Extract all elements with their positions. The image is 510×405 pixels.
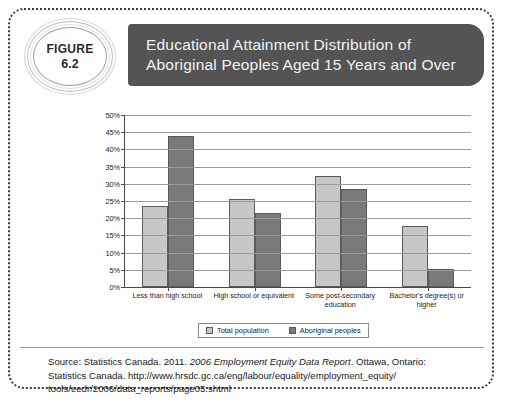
bar-aboriginal xyxy=(255,213,281,287)
source-line-1-italic-title: 2006 Employment Equity Data Report xyxy=(190,356,351,367)
gridline xyxy=(125,201,471,202)
bar-aboriginal xyxy=(428,269,454,287)
legend-label-aboriginal-peoples: Aboriginal peoples xyxy=(300,326,361,335)
y-axis-tick-mark xyxy=(121,287,125,288)
y-axis-tick-mark xyxy=(121,270,125,271)
badge-number: 6.2 xyxy=(61,57,78,71)
y-axis-tick-mark xyxy=(121,201,125,202)
badge-word: FIGURE xyxy=(46,42,93,56)
y-axis-tick-label: 0% xyxy=(109,283,120,292)
plot-area: 50%45%40%35%30%25%20%15%10%5%0% xyxy=(124,115,471,288)
y-axis-tick-mark xyxy=(121,253,125,254)
y-axis-tick-mark xyxy=(121,132,125,133)
gridline xyxy=(125,115,471,116)
x-axis-category-label: Bachelor's degree(s) orhigher xyxy=(384,291,471,309)
y-axis-tick-label: 15% xyxy=(105,231,120,240)
legend-swatch-icon-aboriginal-peoples xyxy=(289,327,296,334)
bar-aboriginal xyxy=(168,136,194,287)
source-line-3: tools/eedr/2006/data_reports/page05.shtm… xyxy=(48,382,478,396)
y-axis-tick-mark xyxy=(121,184,125,185)
y-axis-tick-label: 40% xyxy=(105,145,120,154)
y-axis-tick-label: 20% xyxy=(105,214,120,223)
source-divider xyxy=(20,347,484,348)
y-axis-tick-label: 50% xyxy=(105,111,120,120)
y-axis-tick-mark xyxy=(121,149,125,150)
source-line-1-suffix: . Ottawa, Ontario: xyxy=(351,356,426,367)
figure-card: Educational Attainment Distribution of A… xyxy=(8,8,494,389)
gridline xyxy=(125,167,471,168)
y-axis-tick-mark xyxy=(121,235,125,236)
figure-title-line-1: Educational Attainment Distribution of xyxy=(146,35,484,55)
legend-swatch-icon-total-population xyxy=(206,327,213,334)
x-axis-category-label: Less than high school xyxy=(124,291,211,309)
y-axis-tick-label: 35% xyxy=(105,162,120,171)
gridline xyxy=(125,270,471,271)
gridline xyxy=(125,218,471,219)
y-axis-tick-mark xyxy=(121,218,125,219)
gridline xyxy=(125,132,471,133)
source-line-1: Source: Statistics Canada. 2011. 2006 Em… xyxy=(48,355,478,369)
y-axis-tick-label: 5% xyxy=(109,265,120,274)
y-axis-tick-label: 10% xyxy=(105,248,120,257)
legend-item-total-population: Total population xyxy=(206,326,269,335)
bar-chart: 50%45%40%35%30%25%20%15%10%5%0% Less tha… xyxy=(88,107,480,322)
source-note: Source: Statistics Canada. 2011. 2006 Em… xyxy=(48,355,478,396)
y-axis-tick-label: 25% xyxy=(105,197,120,206)
chart-legend: Total population Aboriginal peoples xyxy=(198,323,369,338)
figure-header-band: Educational Attainment Distribution of A… xyxy=(128,24,484,86)
gridline xyxy=(125,149,471,150)
y-axis-tick-mark xyxy=(121,167,125,168)
badge-text-group: FIGURE 6.2 xyxy=(33,27,107,86)
legend-item-aboriginal-peoples: Aboriginal peoples xyxy=(289,326,361,335)
bar-aboriginal xyxy=(341,189,367,287)
x-axis-category-label: Some post-secondaryeducation xyxy=(297,291,384,309)
x-axis-category-label: High school or equivalent xyxy=(211,291,298,309)
gridline xyxy=(125,253,471,254)
gridline xyxy=(125,184,471,185)
x-axis-labels: Less than high schoolHigh school or equi… xyxy=(124,291,470,309)
figure-number-badge: FIGURE 6.2 xyxy=(24,21,116,91)
figure-title-line-2: Aboriginal Peoples Aged 15 Years and Ove… xyxy=(146,55,484,75)
legend-label-total-population: Total population xyxy=(217,326,269,335)
y-axis-tick-mark xyxy=(121,115,125,116)
source-line-1-prefix: Source: Statistics Canada. 2011. xyxy=(48,356,190,367)
bar-total xyxy=(229,199,255,287)
gridline xyxy=(125,235,471,236)
y-axis-tick-label: 45% xyxy=(105,128,120,137)
source-line-2: Statistics Canada. http://www.hrsdc.gc.c… xyxy=(48,369,478,383)
y-axis-tick-label: 30% xyxy=(105,179,120,188)
